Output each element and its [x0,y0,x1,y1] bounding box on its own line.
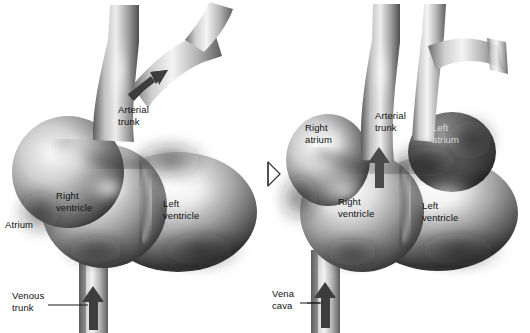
mature-heart-panel: Right atrium Arterial trunk Left atrium … [265,0,530,333]
label-atrium: Atrium [5,219,33,231]
label-left-atrium: Left atrium [432,122,459,145]
label-right-ventricle: Right ventricle [338,196,374,219]
label-right-ventricle: Right ventricle [56,190,92,213]
early-heart-panel: Arterial trunk Right ventricle Left vent… [0,0,265,333]
label-vena-cava: Vena cava [272,288,294,311]
illustration-canvas: Arterial trunk Right ventricle Left vent… [0,0,530,333]
label-venous-trunk: Venous trunk [12,290,44,313]
label-arterial-trunk: Arterial trunk [375,110,406,133]
label-right-atrium: Right atrium [305,122,332,145]
label-arterial-trunk: Arterial trunk [118,104,149,127]
label-left-ventricle: Left ventricle [163,198,199,221]
label-left-ventricle: Left ventricle [422,200,458,223]
